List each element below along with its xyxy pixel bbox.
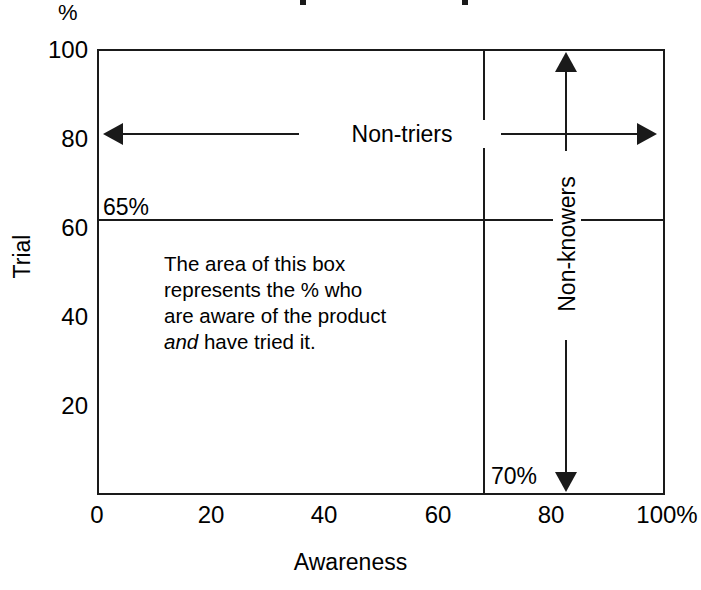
box-note-emphasis: and — [164, 330, 198, 353]
awareness-threshold-label: 70% — [489, 465, 539, 488]
non-knowers-line-bottom — [565, 340, 567, 472]
non-knowers-annotation: Non-knowers — [552, 50, 582, 496]
x-axis-title: Awareness — [0, 551, 701, 574]
x-tick-0: 0 — [90, 503, 103, 527]
awareness-threshold-line — [483, 49, 485, 495]
x-tick-40: 40 — [311, 503, 338, 527]
non-triers-label: Non-triers — [299, 120, 505, 148]
y-axis-unit-label: % — [58, 2, 78, 24]
x-tick-100: 100% — [636, 503, 697, 527]
title-glyph-remnant-b — [462, 0, 468, 5]
trial-threshold-label: 65% — [101, 196, 151, 219]
title-glyph-remnant-a — [300, 0, 306, 5]
box-note-line-2: represents the % who — [164, 277, 464, 303]
cropped-title-strip — [0, 0, 701, 6]
box-area-note: The area of this box represents the % wh… — [164, 251, 464, 355]
non-knowers-label: Non-knowers — [553, 151, 581, 337]
arrow-right-icon — [637, 123, 657, 145]
arrow-left-icon — [103, 123, 123, 145]
x-tick-60: 60 — [425, 503, 452, 527]
non-triers-line-left — [121, 133, 303, 135]
arrow-down-icon — [555, 472, 577, 492]
box-note-line-4: and have tried it. — [164, 329, 464, 355]
arrow-up-icon — [555, 52, 577, 72]
box-note-line-4-rest: have tried it. — [198, 330, 315, 353]
box-note-line-3: are aware of the product — [164, 303, 464, 329]
box-note-line-1: The area of this box — [164, 251, 464, 277]
y-axis-title: Trial — [11, 217, 34, 297]
x-tick-20: 20 — [198, 503, 225, 527]
x-tick-80: 80 — [538, 503, 565, 527]
